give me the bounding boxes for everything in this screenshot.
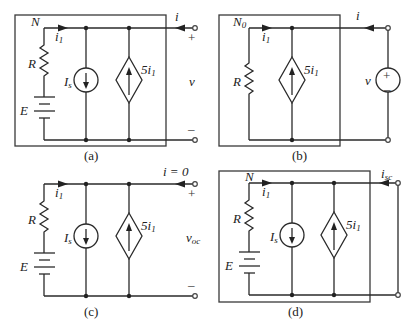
- terminal-current-label: i = 0: [163, 164, 189, 179]
- terminal-voltage-label: voc: [186, 230, 200, 246]
- terminal-current-label: i: [356, 8, 360, 23]
- terminal-voltage-label: v: [189, 74, 195, 89]
- resistor-icon: [40, 184, 48, 253]
- caption: (d): [288, 304, 303, 319]
- resistor-label: R: [27, 212, 36, 227]
- panel-d: N i1 R E Is 5i1 isc (d): [219, 166, 400, 319]
- dep-source-label: 5i1: [304, 62, 319, 78]
- is-label: Is: [269, 229, 278, 245]
- dep-source-label: 5i1: [141, 218, 156, 234]
- terminal-current-label: i: [175, 9, 179, 24]
- network-box: [219, 171, 370, 302]
- resistor-icon: [245, 183, 253, 252]
- plus-sign: +: [188, 186, 195, 201]
- isc-label: isc: [381, 166, 392, 182]
- resistor-icon: [40, 28, 48, 97]
- battery-label: E: [224, 258, 233, 273]
- resistor-icon: [245, 28, 253, 140]
- network-box: [15, 15, 166, 146]
- caption: (a): [84, 148, 98, 163]
- panel-c: i1 R E Is 5i1 i = 0 + voc – (c): [19, 164, 200, 319]
- caption: (b): [292, 148, 307, 163]
- arrow-i-icon: [175, 181, 185, 188]
- resistor-label: R: [232, 74, 241, 89]
- resistor-label: R: [27, 56, 36, 71]
- minus-sign: –: [187, 277, 195, 292]
- network-label: N: [30, 14, 41, 29]
- network-label: N: [244, 169, 255, 184]
- dep-source-label: 5i1: [346, 217, 361, 233]
- source-voltage-label: v: [365, 73, 371, 88]
- battery-label: E: [19, 103, 28, 118]
- minus-sign: –: [187, 121, 195, 136]
- resistor-label: R: [232, 211, 241, 226]
- plus-sign: +: [188, 30, 195, 45]
- panel-b: + – N0 i1 R 5i1 i v (b): [219, 8, 400, 163]
- battery-label: E: [19, 259, 28, 274]
- arrow-i-icon: [175, 25, 185, 32]
- arrow-i1-icon: [58, 25, 68, 32]
- dep-source-label: 5i1: [141, 62, 156, 78]
- arrow-i-icon: [364, 25, 374, 32]
- i1-label: i1: [55, 29, 63, 45]
- i1-label: i1: [55, 185, 63, 201]
- caption: (c): [84, 304, 98, 319]
- is-label: Is: [63, 230, 72, 246]
- circuit-diagram: N i1 R E Is 5i1 i + v – (a) + – N0 i1 R …: [0, 0, 414, 330]
- is-label: Is: [63, 74, 72, 90]
- source-minus: –: [383, 81, 391, 96]
- panel-a: N i1 R E Is 5i1 i + v – (a): [15, 9, 197, 163]
- terminal-minus: [193, 138, 198, 143]
- i1-label: i1: [262, 29, 270, 45]
- i1-label: i1: [262, 184, 270, 200]
- arrow-i1-icon: [58, 181, 68, 188]
- network-label: N0: [232, 14, 247, 30]
